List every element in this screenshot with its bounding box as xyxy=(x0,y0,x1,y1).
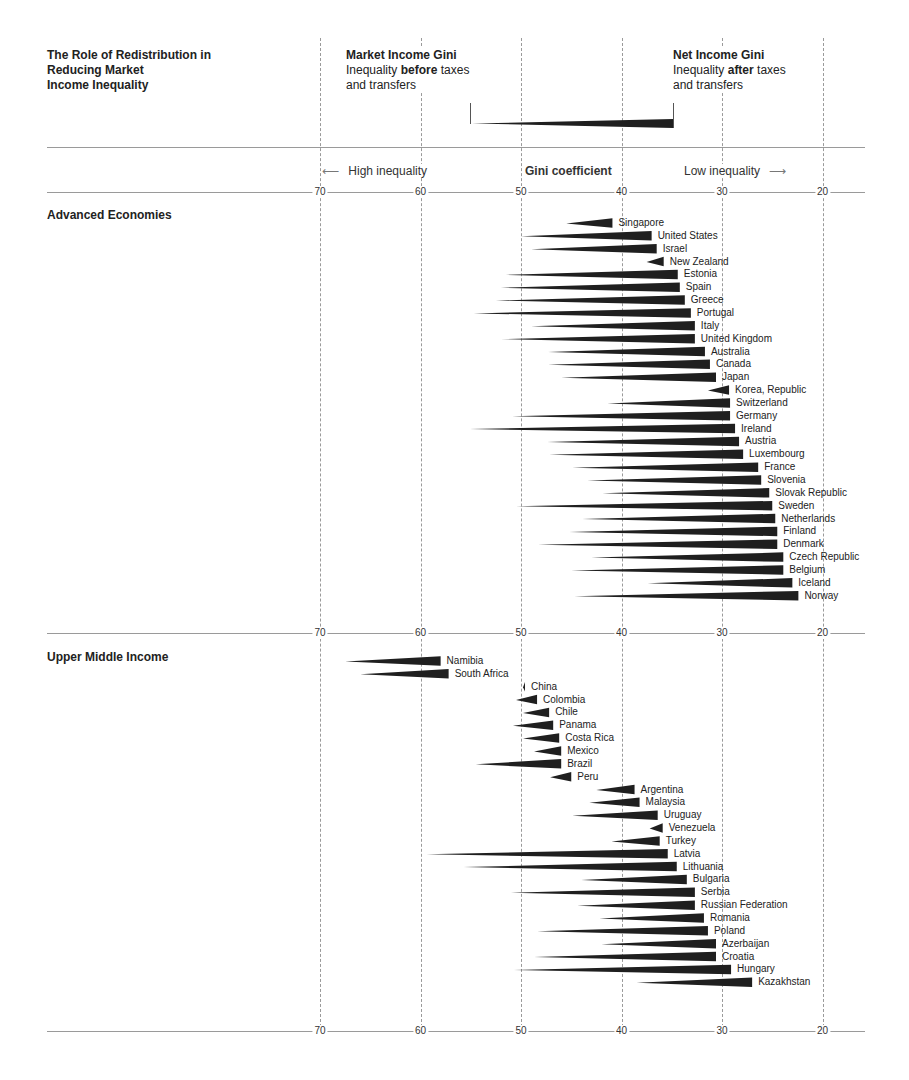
wedge-bar xyxy=(496,295,685,305)
country-label: Italy xyxy=(701,320,719,332)
country-label: Argentina xyxy=(641,784,684,796)
wedge-bar xyxy=(587,475,761,485)
wedge-bar xyxy=(501,334,695,344)
country-label: Serbia xyxy=(701,886,730,898)
wedge-bar xyxy=(470,424,735,434)
country-label: Colombia xyxy=(543,694,585,706)
country-label: Germany xyxy=(736,410,777,422)
country-label: Japan xyxy=(722,371,749,383)
wedge-bar xyxy=(577,900,695,910)
country-label: New Zealand xyxy=(670,256,729,268)
country-label: Mexico xyxy=(567,745,599,757)
wedge-bar xyxy=(708,385,729,395)
country-label: Singapore xyxy=(618,217,664,229)
wedge-bar xyxy=(501,283,680,293)
country-label: Sweden xyxy=(778,500,814,512)
country-label: China xyxy=(531,681,557,693)
wedge-bar xyxy=(464,862,677,872)
country-label: Namibia xyxy=(447,655,484,667)
country-label: Latvia xyxy=(674,848,701,860)
wedge-bar xyxy=(548,347,705,357)
country-label: Iceland xyxy=(798,577,830,589)
wedge-bar xyxy=(566,218,612,228)
country-label: Bulgaria xyxy=(693,873,730,885)
wedge-bar xyxy=(523,708,549,718)
wedge-bar xyxy=(531,321,695,331)
country-label: Panama xyxy=(559,719,596,731)
wedge-bar xyxy=(601,939,716,949)
country-label: Slovak Republic xyxy=(775,487,847,499)
country-label: Azerbaijan xyxy=(722,938,769,950)
wedge-bar xyxy=(637,978,753,988)
wedge-bar xyxy=(648,578,793,588)
wedge-bar xyxy=(596,785,634,795)
wedge-bars xyxy=(0,0,909,1080)
wedge-bar xyxy=(549,450,743,460)
wedge-bar xyxy=(531,244,657,254)
country-label: Malaysia xyxy=(646,796,685,808)
wedge-bar xyxy=(537,926,708,936)
country-label: United States xyxy=(658,230,718,242)
wedge-bar xyxy=(427,849,668,859)
country-label: Israel xyxy=(663,243,687,255)
country-label: Norway xyxy=(804,590,838,602)
wedge-bar xyxy=(523,682,525,692)
wedge-bar xyxy=(521,231,652,241)
wedge-bar xyxy=(516,695,537,705)
wedge-bar xyxy=(511,888,695,898)
country-label: Netherlands xyxy=(781,513,835,525)
wedge-bar xyxy=(581,875,687,885)
country-label: Portugal xyxy=(697,307,734,319)
wedge-bar xyxy=(474,308,691,318)
wedge-bar xyxy=(611,836,659,846)
wedge-bar xyxy=(360,669,448,679)
wedge-bar xyxy=(582,514,775,524)
wedge-bar xyxy=(561,372,716,382)
country-label: Estonia xyxy=(684,268,717,280)
wedge-bar xyxy=(599,913,704,923)
wedge-bar xyxy=(476,759,561,769)
country-label: Brazil xyxy=(567,758,592,770)
country-label: Poland xyxy=(714,925,745,937)
wedge-bar xyxy=(569,527,777,537)
wedge-bar xyxy=(514,965,731,975)
country-label: Denmark xyxy=(783,538,824,550)
country-label: Costa Rica xyxy=(565,732,614,744)
wedge-bar xyxy=(647,257,664,267)
wedge-bar xyxy=(513,721,553,731)
wedge-bar xyxy=(516,501,772,511)
wedge-bar xyxy=(607,398,730,408)
country-label: Turkey xyxy=(666,835,696,847)
country-label: Lithuania xyxy=(683,861,724,873)
country-label: Venezuela xyxy=(669,822,716,834)
wedge-bar xyxy=(602,488,769,498)
wedge-bar xyxy=(572,462,758,472)
wedge-bar xyxy=(550,772,571,782)
wedge-bar xyxy=(523,733,559,743)
country-label: South Africa xyxy=(455,668,509,680)
wedge-bar xyxy=(538,540,777,550)
wedge-bar xyxy=(574,591,798,601)
country-label: Greece xyxy=(691,294,724,306)
wedge-bar xyxy=(591,552,783,562)
country-label: Finland xyxy=(783,525,816,537)
country-label: Austria xyxy=(745,435,776,447)
wedge-bar xyxy=(534,952,716,962)
country-label: Uruguay xyxy=(664,809,702,821)
wedge-bar xyxy=(571,565,783,575)
wedge-bar xyxy=(547,437,739,447)
country-label: Russian Federation xyxy=(701,899,788,911)
country-label: Slovenia xyxy=(767,474,805,486)
country-label: France xyxy=(764,461,795,473)
country-label: Peru xyxy=(577,771,598,783)
wedge-bar xyxy=(345,656,440,666)
country-label: Czech Republic xyxy=(789,551,859,563)
country-label: Romania xyxy=(710,912,750,924)
country-label: Belgium xyxy=(789,564,825,576)
country-label: Croatia xyxy=(722,951,754,963)
country-label: Ireland xyxy=(741,423,772,435)
wedge-bar xyxy=(512,411,730,421)
country-label: Kazakhstan xyxy=(758,976,810,988)
country-label: Korea, Republic xyxy=(735,384,806,396)
country-label: Luxembourg xyxy=(749,448,805,460)
